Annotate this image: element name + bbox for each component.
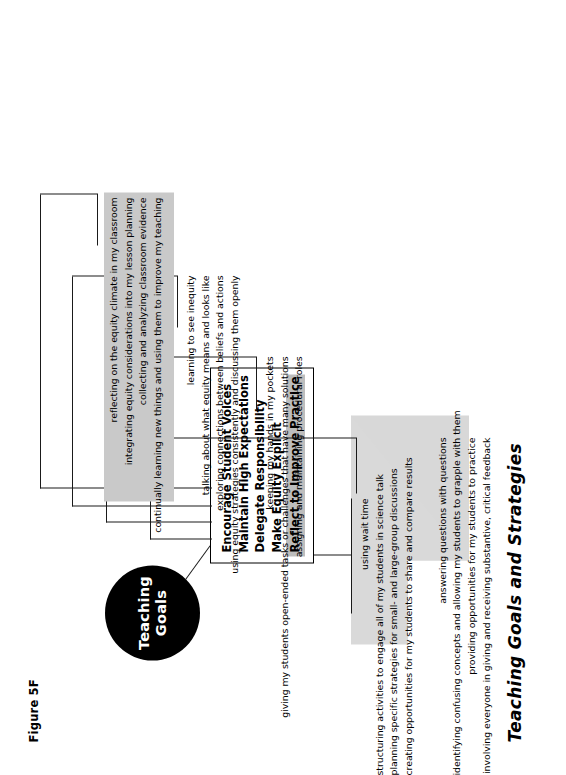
strategy-line: collecting and analyzing classroom evide…: [136, 197, 151, 775]
strategy-line: assigning and maintaining procedural rol…: [292, 356, 307, 775]
connector-goal2-v2: [150, 437, 356, 438]
connector-goal5-v2: [40, 193, 97, 194]
strategy-line: providing opportunities for my students …: [465, 437, 480, 775]
connector-goal1-h: [351, 498, 352, 613]
strategy-line: involving everyone in giving and receivi…: [480, 437, 495, 775]
strategy-line: integrating equity considerations into m…: [122, 197, 137, 775]
strategy-line: giving my students open-ended tasks or c…: [278, 356, 293, 775]
connector-goal4-h2: [177, 275, 178, 327]
connector-goal3-h2: [256, 356, 257, 410]
connector-goal5-h: [40, 194, 41, 488]
strategy-group-make-equity-explicit: learning to see inequity talking about w…: [184, 275, 242, 775]
connector-goal5-h2: [97, 193, 98, 245]
connector-goal4-h: [72, 276, 73, 506]
strategy-group-delegate-responsibility: keeping my hands in my pockets giving my…: [263, 356, 307, 775]
figure-canvas: Figure 5F Teaching Goals and Strategies …: [0, 0, 566, 775]
strategy-line: continually learning new things and usin…: [151, 197, 166, 775]
strategy-group-reflect-to-improve-practice: reflecting on the equity climate in my c…: [107, 197, 165, 775]
strategy-line: talking about what equity means and look…: [199, 275, 214, 775]
strategy-line: identifying confusing concepts and allow…: [450, 437, 465, 775]
figure-label: Figure 5F: [27, 679, 41, 742]
connector-goal2-h2: [356, 437, 357, 493]
figure-title: Teaching Goals and Strategies: [505, 443, 525, 742]
strategy-line: using equity strategies consistently and…: [228, 275, 243, 775]
connector-goal1-v: [314, 554, 352, 555]
strategy-line: reflecting on the equity climate in my c…: [107, 197, 122, 775]
strategy-line: keeping my hands in my pockets: [263, 356, 278, 775]
strategy-group-maintain-high-expectations: . . . . . answering questions with quest…: [363, 437, 494, 775]
strategy-line: answering questions with questions: [436, 437, 451, 775]
strategy-line: exploring connections between beliefs an…: [213, 275, 228, 775]
strategy-line: learning to see inequity: [184, 275, 199, 775]
